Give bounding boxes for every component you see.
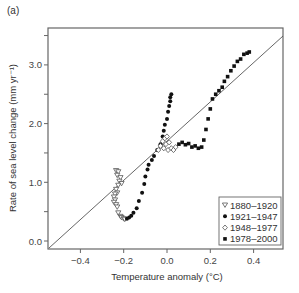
data-point xyxy=(236,60,240,64)
data-point xyxy=(211,97,215,101)
series-1921-1947 xyxy=(125,92,173,220)
data-points xyxy=(111,50,251,221)
data-point xyxy=(184,143,188,147)
data-point xyxy=(220,85,224,89)
data-point xyxy=(135,206,139,210)
data-point xyxy=(247,50,251,54)
y-tick-label: 2.0 xyxy=(29,118,42,129)
legend-label: 1880–1920 xyxy=(230,200,278,211)
legend-label: 1948–1977 xyxy=(230,222,278,233)
data-point xyxy=(190,145,194,149)
y-tick-label: 0.0 xyxy=(29,236,42,247)
panel-label: (a) xyxy=(7,5,19,16)
data-point xyxy=(217,89,221,93)
data-point xyxy=(197,146,201,150)
data-point xyxy=(152,154,156,158)
data-point xyxy=(140,191,144,195)
data-point xyxy=(115,205,120,209)
data-point xyxy=(202,138,206,142)
legend-label: 1978–2000 xyxy=(230,233,278,244)
y-tick-label: 3.0 xyxy=(29,59,42,70)
data-point xyxy=(150,158,154,162)
data-point xyxy=(142,182,146,186)
data-point xyxy=(232,64,236,68)
data-point xyxy=(180,141,184,145)
data-point xyxy=(162,129,166,133)
x-tick-label: −0.2 xyxy=(114,255,133,266)
x-tick-label: 0.0 xyxy=(160,255,173,266)
x-tick-label: 0.4 xyxy=(247,255,260,266)
data-point xyxy=(187,142,191,146)
y-tick-label: 1.0 xyxy=(29,177,42,188)
data-point xyxy=(165,117,169,121)
legend-label: 1921–1947 xyxy=(230,211,278,222)
data-point xyxy=(209,107,213,111)
data-point xyxy=(143,174,147,178)
series-1978-2000 xyxy=(177,50,251,150)
data-point xyxy=(239,57,243,61)
data-point xyxy=(146,167,150,171)
x-axis-title: Temperature anomaly (°C) xyxy=(111,271,223,282)
data-point xyxy=(223,80,227,84)
sea-level-scatter-chart: (a) −0.4−0.20.00.20.40.01.02.03.0 Temper… xyxy=(0,0,299,293)
data-point xyxy=(131,211,135,215)
legend-marker-icon xyxy=(223,214,227,218)
data-point xyxy=(137,199,141,203)
data-point xyxy=(169,92,173,96)
x-tick-label: −0.4 xyxy=(71,255,90,266)
data-point xyxy=(166,110,170,114)
data-point xyxy=(242,53,246,57)
data-point xyxy=(214,92,218,96)
data-point xyxy=(167,104,171,108)
data-point xyxy=(147,163,151,167)
data-point xyxy=(229,69,233,73)
data-point xyxy=(163,123,167,127)
data-point xyxy=(204,128,208,132)
data-point xyxy=(200,145,204,149)
legend-marker-icon xyxy=(223,237,227,241)
data-point xyxy=(177,142,181,146)
x-tick-label: 0.2 xyxy=(204,255,217,266)
legend: 1880–19201921–19471948–19771978–2000 xyxy=(219,197,281,245)
data-point xyxy=(226,75,230,79)
data-point xyxy=(168,99,172,103)
data-point xyxy=(193,144,197,148)
data-point xyxy=(206,117,210,121)
series-1880-1920 xyxy=(111,169,127,222)
y-axis-title: Rate of sea level change (mm yr⁻¹) xyxy=(7,64,18,212)
